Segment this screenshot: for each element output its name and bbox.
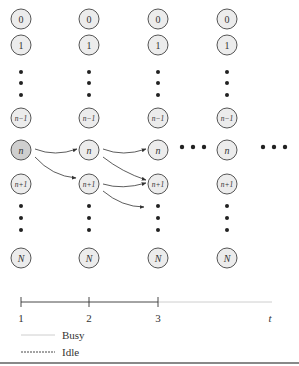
state-node-1: 1	[79, 35, 99, 55]
arrow-n2-to-n3	[103, 149, 146, 153]
state-node-n: n	[148, 140, 168, 160]
tick-label: 1	[18, 312, 24, 324]
state-node-n-minus-1: n−1	[217, 108, 237, 128]
svg-text:n+1: n+1	[152, 180, 165, 189]
svg-text:n−1: n−1	[15, 114, 28, 123]
svg-text:n: n	[156, 145, 161, 156]
vertical-ellipsis	[87, 70, 91, 97]
tick-label: 3	[155, 312, 161, 324]
arrow-n1-to-np1-2	[35, 157, 76, 178]
svg-text:n: n	[225, 145, 230, 156]
svg-text:n−1: n−1	[152, 114, 165, 123]
state-node-0: 0	[148, 9, 168, 29]
state-node-0: 0	[217, 9, 237, 29]
vertical-ellipsis	[225, 204, 229, 232]
horizontal-ellipsis	[180, 145, 206, 149]
state-node-n-plus-1: n+1	[148, 174, 168, 194]
state-node-n-plus-1: n+1	[217, 174, 237, 194]
svg-text:n+1: n+1	[221, 180, 234, 189]
state-node-n-minus-1: n−1	[148, 108, 168, 128]
svg-text:0: 0	[19, 14, 24, 25]
arrow-np1-2-to-np1-3	[103, 183, 146, 187]
state-node-N: N	[79, 248, 99, 268]
svg-text:1: 1	[19, 40, 24, 51]
svg-text:N: N	[223, 253, 232, 264]
svg-text:N: N	[17, 253, 26, 264]
svg-text:0: 0	[225, 14, 230, 25]
column-time-t: 0 1 n−1 n n+1 N	[217, 9, 237, 268]
state-node-n-plus-1: n+1	[11, 174, 31, 194]
state-node-n-highlighted: n	[11, 140, 31, 160]
state-node-0: 0	[11, 9, 31, 29]
vertical-ellipsis	[19, 70, 23, 97]
state-node-1: 1	[11, 35, 31, 55]
legend: Busy Idle	[21, 329, 85, 358]
state-node-N: N	[11, 248, 31, 268]
vertical-ellipsis	[225, 70, 229, 97]
state-node-1: 1	[148, 35, 168, 55]
column-time-2: 0 1 n−1 n n+1 N	[79, 9, 99, 268]
state-node-0: 0	[79, 9, 99, 29]
arrow-np1-2-to-np2-3	[103, 191, 144, 207]
svg-text:n: n	[19, 145, 24, 156]
state-transition-diagram: 0 1 n−1 n n+1 N 0 1 n−1 n n+1 N 0 1 n−1 …	[0, 0, 299, 366]
svg-text:1: 1	[156, 40, 161, 51]
vertical-ellipsis	[156, 70, 160, 97]
vertical-ellipsis	[87, 204, 91, 232]
svg-text:1: 1	[225, 40, 230, 51]
state-node-N: N	[217, 248, 237, 268]
axis-end-label: t	[268, 312, 272, 324]
state-node-N: N	[148, 248, 168, 268]
vertical-ellipsis	[156, 204, 160, 232]
svg-text:n+1: n+1	[83, 180, 96, 189]
svg-text:n: n	[87, 145, 92, 156]
svg-text:N: N	[154, 253, 163, 264]
column-time-3: 0 1 n−1 n n+1 N	[148, 9, 168, 268]
arrow-n1-to-n2	[35, 149, 77, 153]
column-time-1: 0 1 n−1 n n+1 N	[11, 9, 31, 268]
tick-label: 2	[86, 312, 92, 324]
svg-text:N: N	[85, 253, 94, 264]
state-node-n-minus-1: n−1	[79, 108, 99, 128]
svg-text:n+1: n+1	[15, 180, 28, 189]
legend-busy-label: Busy	[62, 329, 85, 341]
state-node-n: n	[79, 140, 99, 160]
arrow-n2-to-np1-3	[103, 157, 146, 180]
state-node-n-plus-1: n+1	[79, 174, 99, 194]
state-node-n: n	[217, 140, 237, 160]
svg-text:0: 0	[156, 14, 161, 25]
svg-text:1: 1	[87, 40, 92, 51]
vertical-ellipsis	[19, 204, 23, 232]
state-node-1: 1	[217, 35, 237, 55]
horizontal-ellipsis	[261, 145, 287, 149]
svg-text:n−1: n−1	[221, 114, 234, 123]
svg-text:0: 0	[87, 14, 92, 25]
svg-text:n−1: n−1	[83, 114, 96, 123]
state-node-n-minus-1: n−1	[11, 108, 31, 128]
time-axis: 1 2 3 t	[18, 297, 272, 324]
legend-idle-label: Idle	[62, 346, 79, 358]
